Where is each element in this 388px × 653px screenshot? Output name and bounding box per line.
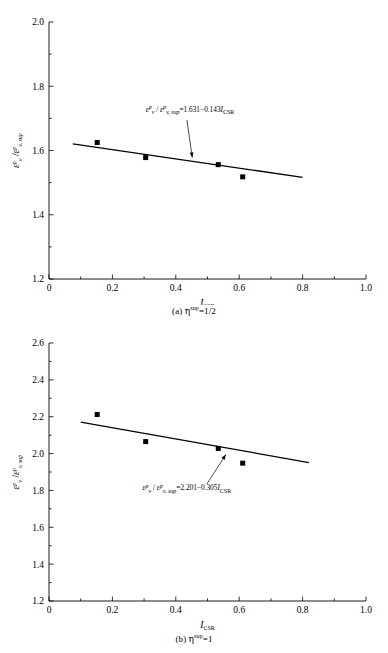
caption-a-prefix: (a) [172, 306, 185, 316]
y-axis-title: εpv /εpv, sup [11, 133, 23, 168]
x-tick-label: 0.2 [106, 605, 118, 615]
annotation-leader-line [187, 120, 192, 158]
y-tick-label: 1.2 [32, 274, 44, 284]
y-tick-label: 1.8 [32, 82, 44, 92]
y-tick-label: 2.4 [32, 375, 44, 385]
x-axis-title: ICSR [199, 620, 215, 631]
y-tick-label: 1.4 [32, 560, 44, 570]
x-tick-label: 0.8 [297, 283, 309, 293]
x-tick-label: 1.0 [360, 283, 372, 293]
data-point-marker [95, 412, 100, 417]
panel-a: 00.20.40.60.81.01.21.41.61.82.0ICSRεpv /… [0, 0, 388, 325]
y-tick-label: 1.4 [32, 210, 44, 220]
y-tick-label: 1.2 [32, 596, 44, 606]
y-tick-label: 2.0 [32, 449, 44, 459]
caption-a-sup: sup [190, 305, 199, 311]
x-axis-title-sub: CSR [203, 625, 214, 631]
x-tick-label: 0 [47, 283, 52, 293]
y-tick-label: 2.0 [32, 17, 44, 27]
regression-line [81, 422, 309, 462]
regression-line [73, 144, 303, 177]
annotation-arrowhead [190, 152, 194, 157]
caption-b-prefix: (b) [175, 634, 188, 644]
y-tick-label: 2.2 [32, 412, 44, 422]
x-tick-label: 0.4 [170, 605, 182, 615]
caption-a: (a) ηsup=1/2 [0, 305, 388, 316]
y-tick-label: 1.6 [32, 523, 44, 533]
data-point-marker [143, 439, 148, 444]
caption-b-suffix: =1 [203, 634, 213, 644]
data-point-marker [216, 446, 221, 451]
data-point-marker [216, 162, 221, 167]
annotation-leader-line [207, 454, 226, 483]
caption-b-sup: sup [194, 633, 203, 639]
annotation-equation: εpv / εpv, sup=1.631−0.143ICSR [146, 104, 235, 115]
x-tick-label: 0 [47, 605, 52, 615]
y-tick-label: 1.8 [32, 486, 44, 496]
chart-a: 00.20.40.60.81.01.21.41.61.82.0ICSRεpv /… [0, 0, 388, 305]
x-tick-label: 1.0 [360, 605, 372, 615]
x-axis-title: ICSR [199, 298, 215, 305]
data-point-marker [240, 461, 245, 466]
data-point-marker [143, 155, 148, 160]
data-point-marker [240, 174, 245, 179]
caption-b: (b) ηsup=1 [0, 633, 388, 644]
x-tick-label: 0.4 [170, 283, 182, 293]
annotation-equation: εpv / εpv, sup=2.201−0.305ICSR [143, 483, 232, 494]
annotation-arrowhead [221, 454, 225, 459]
x-tick-label: 0.8 [297, 605, 309, 615]
x-tick-label: 0.6 [233, 605, 245, 615]
caption-a-suffix: =1/2 [199, 306, 216, 316]
data-point-marker [95, 140, 100, 145]
y-axis-title: εpv /εpv, sup [11, 455, 23, 490]
y-tick-label: 1.6 [32, 146, 44, 156]
x-tick-label: 0.2 [106, 283, 118, 293]
y-tick-label: 2.6 [32, 338, 44, 348]
figure-container: 00.20.40.60.81.01.21.41.61.82.0ICSRεpv /… [0, 0, 388, 653]
x-tick-label: 0.6 [233, 283, 245, 293]
chart-b: 00.20.40.60.81.01.21.41.61.82.02.22.42.6… [0, 325, 388, 633]
panel-b: 00.20.40.60.81.01.21.41.61.82.02.22.42.6… [0, 325, 388, 653]
